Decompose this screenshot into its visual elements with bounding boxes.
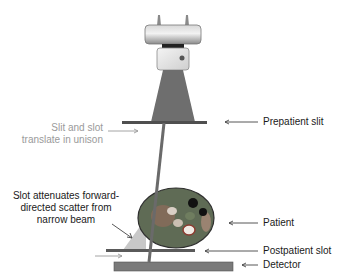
detector: [114, 262, 233, 271]
xray-beam: [151, 70, 195, 122]
label-scatter-1: Slot attenuates forward-: [4, 190, 128, 202]
arrow-scatter: [112, 224, 132, 238]
label-scatter-2: directed scatter from: [4, 202, 128, 214]
label-postpatient-slot: Postpatient slot: [263, 245, 331, 257]
label-patient: Patient: [263, 217, 294, 229]
label-prepatient-slit: Prepatient slit: [263, 116, 324, 128]
label-detector: Detector: [263, 259, 301, 271]
patient-cross-section: [138, 188, 214, 248]
label-scatter-3: narrow beam: [4, 214, 128, 226]
label-slit-slot-2: translate in unison: [8, 134, 103, 146]
label-slit-slot-1: Slit and slot: [47, 122, 103, 134]
xray-tube-icon: [145, 15, 201, 70]
